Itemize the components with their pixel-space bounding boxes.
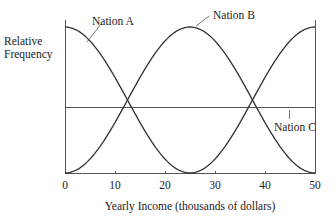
x-tick-label: 10 — [109, 179, 121, 191]
income-distribution-chart: Relative Frequency 0 10 20 30 40 50 Year… — [0, 0, 336, 218]
nation-c-label: Nation C — [274, 121, 316, 133]
nation-b-curve — [65, 27, 315, 173]
nation-b-pointer — [196, 16, 209, 26]
nation-a-curve — [65, 27, 315, 173]
x-tick-label: 20 — [159, 179, 171, 191]
y-axis-label-line2: Frequency — [4, 48, 53, 61]
y-axis-label-line1: Relative — [4, 35, 42, 47]
nation-b-label: Nation B — [213, 9, 255, 21]
x-tick-label: 0 — [62, 179, 68, 191]
x-tick-label: 50 — [309, 179, 321, 191]
nation-a-label: Nation A — [92, 15, 135, 27]
x-axis-label: Yearly Income (thousands of dollars) — [105, 200, 276, 213]
x-tick-label: 40 — [259, 179, 271, 191]
x-tick-label: 30 — [209, 179, 221, 191]
